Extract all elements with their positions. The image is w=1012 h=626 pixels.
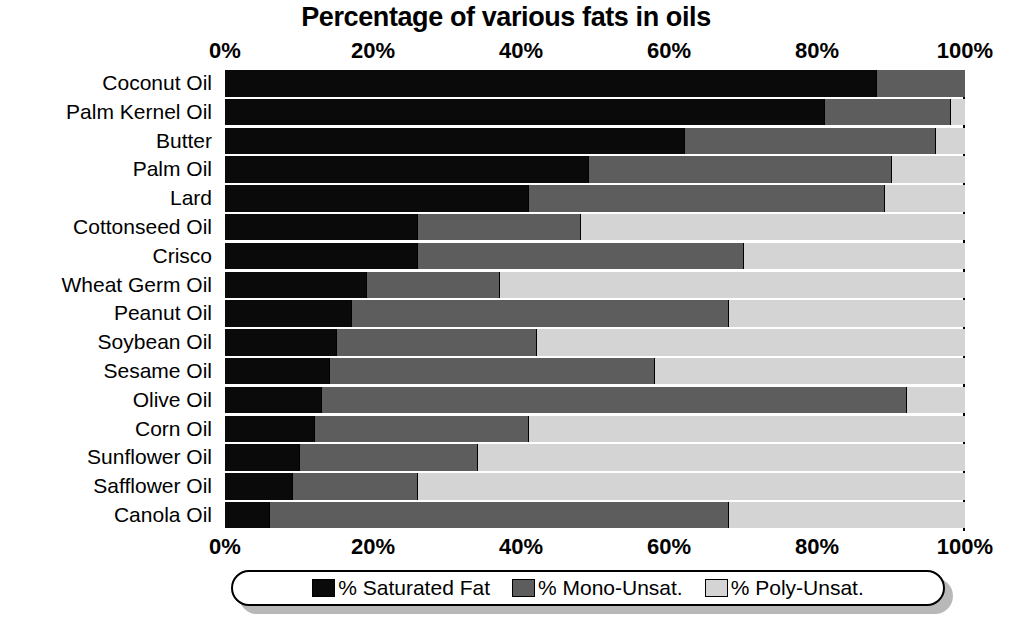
bar-row [225, 185, 965, 212]
bar-segment-mono-unsat [269, 502, 728, 529]
bar-segment-saturated [225, 358, 329, 385]
bar-segment-saturated [225, 214, 417, 241]
bar-row [225, 243, 965, 270]
bar-segment-mono-unsat [684, 128, 936, 155]
y-axis-label-sunflower-oil: Sunflower Oil [0, 444, 218, 471]
bar-segment-saturated [225, 128, 684, 155]
bar-segment-mono-unsat [336, 329, 536, 356]
fats-in-oils-chart: Percentage of various fats in oils 0%20%… [0, 0, 1012, 626]
bar-segment-saturated [225, 473, 292, 500]
y-axis-label-peanut-oil: Peanut Oil [0, 300, 218, 327]
bar-segment-mono-unsat [876, 70, 965, 97]
plot-area [225, 70, 965, 531]
x-axis-tick-80: 80% [795, 534, 839, 560]
y-axis-label-soybean-oil: Soybean Oil [0, 329, 218, 356]
y-axis-label-olive-oil: Olive Oil [0, 387, 218, 414]
bar-segment-poly-unsat [743, 243, 965, 270]
bar-segment-saturated [225, 502, 269, 529]
bar-segment-poly-unsat [728, 502, 965, 529]
bar-segment-poly-unsat [884, 185, 965, 212]
y-axis-label-corn-oil: Corn Oil [0, 416, 218, 443]
bar-segment-poly-unsat [728, 300, 965, 327]
bar-segment-poly-unsat [654, 358, 965, 385]
bar-segment-saturated [225, 185, 528, 212]
bar-row [225, 70, 965, 97]
x-axis-tick-60: 60% [647, 38, 691, 64]
bar-segment-mono-unsat [329, 358, 655, 385]
bar-segment-saturated [225, 329, 336, 356]
legend-item-poly[interactable]: % Poly-Unsat. [705, 576, 864, 600]
y-axis-label-palm-kernel-oil: Palm Kernel Oil [0, 99, 218, 126]
bar-row [225, 502, 965, 529]
y-axis-label-palm-oil: Palm Oil [0, 156, 218, 183]
x-axis-tick-100: 100% [937, 38, 993, 64]
bar-segment-poly-unsat [950, 99, 965, 126]
chart-legend: % Saturated Fat% Mono-Unsat.% Poly-Unsat… [231, 570, 945, 606]
bar-segment-poly-unsat [536, 329, 965, 356]
bar-row [225, 128, 965, 155]
bar-row [225, 444, 965, 471]
bar-segment-saturated [225, 416, 314, 443]
y-axis-label-safflower-oil: Safflower Oil [0, 473, 218, 500]
bar-row [225, 416, 965, 443]
bar-segment-saturated [225, 243, 417, 270]
bar-row [225, 329, 965, 356]
bar-row [225, 387, 965, 414]
bar-segment-poly-unsat [891, 156, 965, 183]
y-axis-label-butter: Butter [0, 128, 218, 155]
bar-segment-mono-unsat [292, 473, 418, 500]
y-axis-category-labels: Coconut OilPalm Kernel OilButterPalm Oil… [0, 70, 218, 531]
x-axis-tick-20: 20% [351, 38, 395, 64]
y-axis-label-crisco: Crisco [0, 243, 218, 270]
bar-row [225, 272, 965, 299]
bar-segment-mono-unsat [588, 156, 891, 183]
bar-segment-mono-unsat [417, 214, 580, 241]
legend-swatch-sat-icon [312, 579, 335, 597]
x-axis-tick-40: 40% [499, 38, 543, 64]
x-axis-tick-60: 60% [647, 534, 691, 560]
x-axis-tick-0: 0% [209, 534, 241, 560]
bar-segment-poly-unsat [477, 444, 965, 471]
bar-row [225, 358, 965, 385]
bar-segment-poly-unsat [528, 416, 965, 443]
bar-segment-mono-unsat [321, 387, 906, 414]
bar-segment-saturated [225, 387, 321, 414]
bar-row [225, 99, 965, 126]
legend-swatch-poly-icon [705, 579, 728, 597]
bar-segment-mono-unsat [366, 272, 499, 299]
y-axis-label-sesame-oil: Sesame Oil [0, 358, 218, 385]
y-axis-label-wheat-germ-oil: Wheat Germ Oil [0, 272, 218, 299]
legend-swatch-mono-icon [512, 579, 535, 597]
x-axis-tick-0: 0% [209, 38, 241, 64]
x-axis-tick-100: 100% [937, 534, 993, 560]
x-axis-tick-80: 80% [795, 38, 839, 64]
bar-segment-poly-unsat [417, 473, 965, 500]
bar-segment-poly-unsat [935, 128, 965, 155]
bar-segment-saturated [225, 70, 876, 97]
bar-segment-poly-unsat [499, 272, 965, 299]
bar-row [225, 300, 965, 327]
bar-segment-mono-unsat [824, 99, 950, 126]
bar-segment-mono-unsat [299, 444, 477, 471]
y-axis-label-lard: Lard [0, 185, 218, 212]
bar-segment-saturated [225, 300, 351, 327]
x-axis-tick-40: 40% [499, 534, 543, 560]
bar-segment-mono-unsat [351, 300, 728, 327]
legend-item-mono[interactable]: % Mono-Unsat. [512, 576, 683, 600]
x-axis-top: 0%20%40%60%80%100% [225, 38, 965, 62]
legend-label: % Saturated Fat [338, 576, 490, 600]
bar-segment-poly-unsat [580, 214, 965, 241]
bar-row [225, 473, 965, 500]
bar-segment-mono-unsat [417, 243, 743, 270]
x-axis-bottom: 0%20%40%60%80%100% [225, 534, 965, 558]
y-axis-label-cottonseed-oil: Cottonseed Oil [0, 214, 218, 241]
bar-segment-mono-unsat [528, 185, 883, 212]
y-axis-label-coconut-oil: Coconut Oil [0, 70, 218, 97]
bar-row [225, 214, 965, 241]
legend-label: % Poly-Unsat. [731, 576, 864, 600]
legend-item-sat[interactable]: % Saturated Fat [312, 576, 490, 600]
bar-segment-saturated [225, 99, 824, 126]
chart-title: Percentage of various fats in oils [0, 2, 1012, 33]
bar-row [225, 156, 965, 183]
legend-label: % Mono-Unsat. [538, 576, 683, 600]
